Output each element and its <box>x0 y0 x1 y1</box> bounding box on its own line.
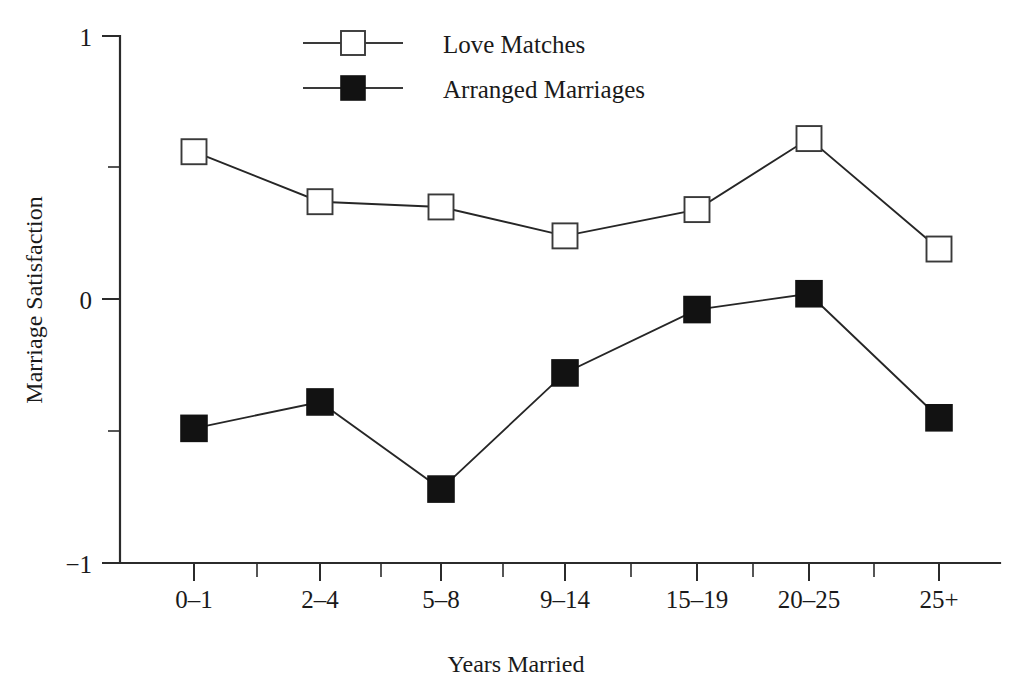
data-point-marker <box>927 237 952 262</box>
x-axis-title: Years Married <box>448 651 585 677</box>
x-tick-label-2: 5–8 <box>422 586 460 613</box>
x-tick-label-1: 2–4 <box>301 586 339 613</box>
data-point-marker <box>797 126 822 151</box>
chart-container: 1 0 −1 0–1 2–4 5–8 9–14 15–19 20–25 25+ … <box>0 0 1019 697</box>
data-point-marker <box>552 360 578 386</box>
legend-marker-arranged-marriages <box>341 76 365 100</box>
x-tick-label-6: 25+ <box>919 586 958 613</box>
series-layer <box>181 126 952 502</box>
data-point-marker <box>308 189 333 214</box>
x-tick-label-4: 15–19 <box>666 586 729 613</box>
data-point-marker <box>428 476 454 502</box>
data-point-marker <box>684 297 710 323</box>
series-love-matches <box>182 126 952 261</box>
x-axis-ticks <box>194 563 939 581</box>
x-tick-label-0: 0–1 <box>175 586 213 613</box>
data-point-marker <box>796 281 822 307</box>
y-axis-title: Marriage Satisfaction <box>21 196 47 403</box>
x-tick-label-5: 20–25 <box>778 586 841 613</box>
data-point-marker <box>182 139 207 164</box>
data-point-marker <box>553 223 578 248</box>
legend-marker-love-matches <box>341 31 365 55</box>
series-line <box>194 294 939 489</box>
legend-label-love-matches: Love Matches <box>443 31 585 58</box>
series-arranged-marriages <box>181 281 952 502</box>
y-tick-label-1: 1 <box>80 24 93 51</box>
line-chart-svg: 1 0 −1 0–1 2–4 5–8 9–14 15–19 20–25 25+ … <box>0 0 1019 697</box>
data-point-marker <box>307 389 333 415</box>
chart-legend: Love Matches Arranged Marriages <box>303 31 645 103</box>
y-axis-ticks <box>102 36 120 563</box>
legend-label-arranged-marriages: Arranged Marriages <box>443 76 645 103</box>
data-point-marker <box>429 194 454 219</box>
data-point-marker <box>685 197 710 222</box>
y-tick-label-minus1: −1 <box>65 551 92 578</box>
data-point-marker <box>926 405 952 431</box>
y-tick-label-0: 0 <box>80 287 93 314</box>
data-point-marker <box>181 415 207 441</box>
x-tick-label-3: 9–14 <box>540 586 591 613</box>
